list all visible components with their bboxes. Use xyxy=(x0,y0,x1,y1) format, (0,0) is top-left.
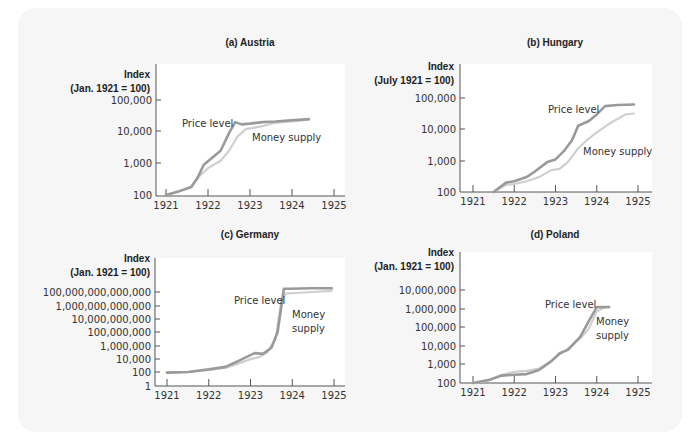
plot-area xyxy=(156,64,345,196)
money-supply-annotation: supply xyxy=(292,323,325,334)
y-tick-label: 100,000 xyxy=(111,95,152,106)
money-supply-annotation: Money xyxy=(292,309,325,320)
y-tick-label: 10,000,000 xyxy=(399,285,456,296)
x-tick-label: 1925 xyxy=(625,387,650,398)
price-level-annotation: Price level xyxy=(548,104,599,115)
money-supply-annotation: Money supply xyxy=(583,146,652,157)
y-tick-label: 1,000 xyxy=(123,158,152,169)
chart-poland: (d) PolandIndex(Jan. 1921 = 100)10,000,0… xyxy=(374,229,652,398)
plot-area xyxy=(460,64,652,192)
chart-title: (a) Austria xyxy=(225,37,275,48)
y-tick-label: 100,000 xyxy=(415,93,456,104)
chart-title: (d) Poland xyxy=(531,229,580,240)
x-tick-label: 1922 xyxy=(195,200,220,211)
y-tick-label: 10,000 xyxy=(116,354,151,365)
y-axis-label-base: (Jan. 1921 = 100) xyxy=(70,267,150,278)
y-tick-label: 100 xyxy=(437,187,456,198)
x-tick-label: 1924 xyxy=(280,390,305,401)
y-tick-label: 1,000 xyxy=(427,359,456,370)
chart-hungary: (b) HungaryIndex(July 1921 = 100)100,000… xyxy=(374,37,652,207)
charts-canvas: (a) AustriaIndex(Jan. 1921 = 100)100,000… xyxy=(0,0,697,438)
chart-germany: (c) GermanyIndex(Jan. 1921 = 100)100,000… xyxy=(43,229,347,401)
x-tick-label: 1923 xyxy=(543,196,568,207)
x-tick-label: 1924 xyxy=(279,200,304,211)
price-level-annotation: Price level xyxy=(234,295,285,306)
y-tick-label: 10,000 xyxy=(421,124,456,135)
y-tick-label: 1 xyxy=(145,381,151,392)
money-supply-annotation: Money xyxy=(596,316,629,327)
price-level-annotation: Price level xyxy=(182,118,233,129)
y-axis-label-base: (Jan. 1921 = 100) xyxy=(374,261,454,272)
y-tick-label: 1,000,000 xyxy=(100,341,151,352)
x-tick-label: 1922 xyxy=(196,390,221,401)
x-tick-label: 1923 xyxy=(543,387,568,398)
x-tick-label: 1923 xyxy=(238,390,263,401)
x-tick-label: 1921 xyxy=(460,387,485,398)
x-tick-label: 1921 xyxy=(153,200,178,211)
y-tick-label: 100 xyxy=(133,190,152,201)
plot-area xyxy=(155,258,345,386)
x-tick-label: 1925 xyxy=(321,390,346,401)
x-tick-label: 1923 xyxy=(237,200,262,211)
chart-title: (b) Hungary xyxy=(527,37,584,48)
y-axis-label-base: (Jan. 1921 = 100) xyxy=(70,83,150,94)
y-tick-label: 10,000 xyxy=(421,341,456,352)
y-tick-label: 100,000,000 xyxy=(87,327,151,338)
y-tick-label: 100,000 xyxy=(415,322,456,333)
y-tick-label: 100 xyxy=(132,367,151,378)
x-tick-label: 1925 xyxy=(625,196,650,207)
y-axis-label-base: (July 1921 = 100) xyxy=(374,75,454,86)
y-axis-label: Index xyxy=(428,247,455,258)
y-tick-label: 1,000,000,000,000 xyxy=(56,301,151,312)
money-supply-annotation: supply xyxy=(596,330,629,341)
y-axis-label: Index xyxy=(124,69,151,80)
money-supply-annotation: Money supply xyxy=(252,132,321,143)
x-tick-label: 1921 xyxy=(460,196,485,207)
chart-title: (c) Germany xyxy=(221,229,280,240)
x-tick-label: 1924 xyxy=(584,387,609,398)
y-tick-label: 1,000 xyxy=(427,156,456,167)
y-tick-label: 100,000,000,000,000 xyxy=(43,287,151,298)
x-tick-label: 1922 xyxy=(502,387,527,398)
y-tick-label: 1,000,000 xyxy=(405,304,456,315)
x-tick-label: 1922 xyxy=(502,196,527,207)
y-tick-label: 100 xyxy=(437,378,456,389)
x-tick-label: 1924 xyxy=(584,196,609,207)
y-axis-label: Index xyxy=(124,253,151,264)
y-axis-label: Index xyxy=(428,61,455,72)
y-tick-label: 10,000,000,000 xyxy=(71,314,151,325)
x-tick-label: 1921 xyxy=(154,390,179,401)
chart-austria: (a) AustriaIndex(Jan. 1921 = 100)100,000… xyxy=(70,37,347,211)
x-tick-label: 1925 xyxy=(321,200,346,211)
price-level-annotation: Price level xyxy=(545,299,596,310)
y-tick-label: 10,000 xyxy=(117,126,152,137)
